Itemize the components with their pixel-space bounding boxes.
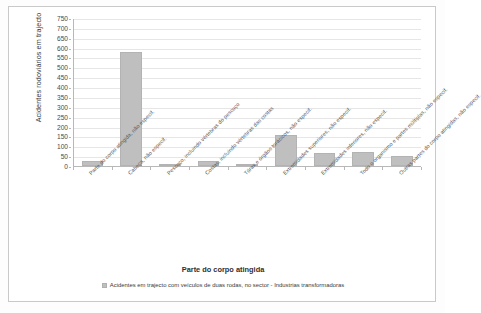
y-axis-tick-label: 450 (57, 75, 68, 82)
bar-series (73, 19, 421, 166)
y-axis-tick-mark (69, 58, 71, 59)
legend-entry-label: Acidentes em trajecto com veículos de du… (110, 282, 344, 288)
legend-color-swatch (102, 283, 107, 288)
y-axis-tick-label: 750 (57, 16, 68, 23)
y-axis-tick-label: 150 (57, 134, 68, 141)
y-axis-tick-mark (69, 157, 71, 158)
x-axis-category-labels: Parte do corpo atingida, não especif.Cab… (9, 170, 437, 270)
y-axis-tick-label: 700 (57, 26, 68, 33)
y-axis-tick-mark (69, 78, 71, 79)
bar[interactable] (120, 52, 142, 166)
y-axis-tick-mark (69, 68, 71, 69)
y-axis-tick-label: 50 (61, 154, 68, 161)
y-axis-tick-mark (69, 98, 71, 99)
y-axis-tick-mark (69, 108, 71, 109)
bar-slot (73, 19, 112, 166)
x-axis-title: Parte do corpo atingida (9, 265, 437, 274)
y-axis-tick-label: 300 (57, 105, 68, 112)
chart-container: Acidentes rodoviários em trajecto 750700… (8, 6, 436, 302)
y-axis-tick-label: 350 (57, 95, 68, 102)
y-axis-tick-mark (69, 88, 71, 89)
y-axis-tick-label: 200 (57, 124, 68, 131)
y-axis-tick-mark (69, 137, 71, 138)
y-axis-tick-mark (69, 167, 71, 168)
y-axis-tick-label: 550 (57, 55, 68, 62)
y-axis-tick-label: 500 (57, 65, 68, 72)
y-axis-tick-label: 650 (57, 35, 68, 42)
y-axis-tick-mark (69, 118, 71, 119)
y-axis-tick-mark (69, 29, 71, 30)
y-axis-tick-mark (69, 147, 71, 148)
y-axis-tick-label: 250 (57, 114, 68, 121)
y-axis-tick-mark (69, 39, 71, 40)
y-axis-tick-label: 400 (57, 85, 68, 92)
chart-legend: Acidentes em trajecto com veículos de du… (9, 282, 437, 288)
y-axis-tick-mark (69, 49, 71, 50)
y-axis-tick-label: 600 (57, 45, 68, 52)
y-axis-tick-label: 100 (57, 144, 68, 151)
y-axis-tick-mark (69, 128, 71, 129)
y-axis-tick-mark (69, 19, 71, 20)
y-axis-tick-labels: 7507006506005505004504003503002502001501… (9, 19, 71, 167)
